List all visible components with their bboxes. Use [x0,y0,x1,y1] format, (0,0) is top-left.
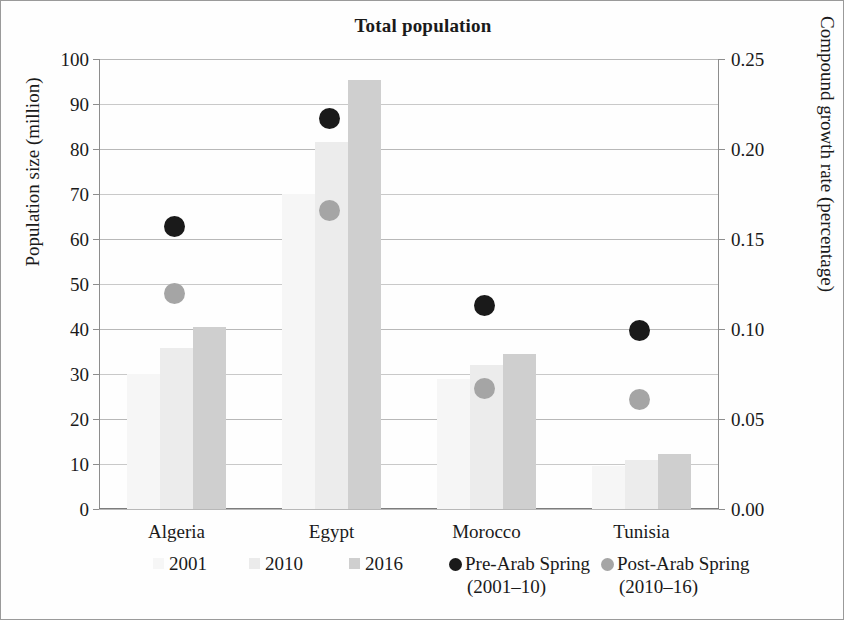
legend-label: Pre-Arab Spring [465,553,590,574]
y-axis-left-tick-label: 70 [29,185,89,204]
legend-square-icon [249,558,260,569]
gridline [99,284,719,285]
chart-legend: 200120102016Pre-Arab Spring(2001–10)Post… [1,553,844,615]
y-axis-right-tick [719,419,725,420]
data-point-marker [629,389,650,410]
figure-container: Total population Population size (millio… [0,0,844,620]
y-axis-right-tick-label: 0.05 [731,410,801,429]
legend-sublabel: (2010–16) [619,576,749,598]
bar [348,80,381,509]
y-axis-left-tick [93,59,99,60]
y-axis-right-title: Compound growth rate (percentage) [816,0,838,319]
bar [193,327,226,509]
x-axis-category-label: Egypt [252,521,412,543]
x-axis-category-label: Morocco [407,521,567,543]
y-axis-left-tick-label: 30 [29,365,89,384]
y-axis-right-tick-label: 0.20 [731,140,801,159]
bar [282,194,315,509]
y-axis-left-tick-label: 60 [29,230,89,249]
data-point-marker [629,320,650,341]
y-axis-left-tick [93,149,99,150]
bar [625,460,658,510]
y-axis-left-tick [93,194,99,195]
y-axis-left-line [99,59,100,509]
gridline [99,104,719,105]
y-axis-left-tick-label: 80 [29,140,89,159]
y-axis-left-tick [93,284,99,285]
data-point-marker [474,378,495,399]
chart-title: Total population [1,15,844,37]
y-axis-left-tick [93,419,99,420]
legend-label: Post-Arab Spring [617,553,749,574]
data-point-marker [474,295,495,316]
gridline [99,149,719,150]
y-axis-right-tick [719,239,725,240]
y-axis-left-tick [93,329,99,330]
legend-item[interactable]: 2001 [153,553,207,575]
x-axis-category-label: Algeria [97,521,257,543]
legend-label: 2016 [365,553,403,574]
y-axis-right-tick [719,329,725,330]
y-axis-right-line [718,59,719,509]
y-axis-left-tick-label: 50 [29,275,89,294]
legend-item[interactable]: 2010 [249,553,303,575]
legend-square-icon [349,558,360,569]
y-axis-left-tick-label: 20 [29,410,89,429]
legend-label: 2010 [265,553,303,574]
y-axis-right-tick [719,149,725,150]
data-point-marker [319,200,340,221]
legend-sublabel: (2001–10) [467,576,590,598]
plot-area: 01020304050607080901000.000.050.100.150.… [99,59,719,509]
gridline [99,59,719,60]
bar [315,142,348,509]
y-axis-right-tick-label: 0.25 [731,50,801,69]
y-axis-right-tick-label: 0.15 [731,230,801,249]
legend-square-icon [153,558,164,569]
gridline [99,239,719,240]
y-axis-left-tick-label: 10 [29,455,89,474]
y-axis-left-tick [93,104,99,105]
y-axis-left-tick-label: 0 [29,500,89,519]
bar [658,454,691,509]
y-axis-left-tick [93,239,99,240]
bar [437,379,470,510]
y-axis-left-tick [93,509,99,510]
data-point-marker [164,216,185,237]
bar [592,466,625,509]
y-axis-right-tick-label: 0.00 [731,500,801,519]
bar [127,374,160,509]
legend-label: 2001 [169,553,207,574]
y-axis-left-tick-label: 40 [29,320,89,339]
y-axis-left-tick [93,464,99,465]
legend-circle-icon [449,558,462,571]
data-point-marker [164,283,185,304]
y-axis-left-tick [93,374,99,375]
x-axis-category-label: Tunisia [562,521,722,543]
legend-item[interactable]: 2016 [349,553,403,575]
y-axis-right-tick [719,509,725,510]
bar [503,354,536,509]
y-axis-right-tick [719,59,725,60]
y-axis-right-tick-label: 0.10 [731,320,801,339]
legend-circle-icon [601,558,614,571]
gridline [99,329,719,330]
legend-item[interactable]: Pre-Arab Spring(2001–10) [449,553,590,598]
gridline [99,194,719,195]
bar [160,348,193,509]
y-axis-left-tick-label: 100 [29,50,89,69]
legend-item[interactable]: Post-Arab Spring(2010–16) [601,553,749,598]
y-axis-left-tick-label: 90 [29,95,89,114]
data-point-marker [319,108,340,129]
